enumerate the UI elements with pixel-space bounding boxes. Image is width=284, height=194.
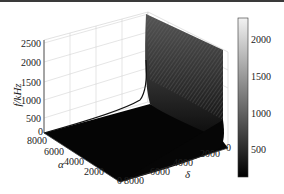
z-axis-ticks: 2500 2000 1500 1000 500 0 — [21, 38, 43, 137]
colorbar-tick: 1500 — [251, 71, 271, 82]
z-tick: 2000 — [21, 57, 41, 68]
z-tick: 2500 — [21, 38, 41, 49]
delta-tick: 8000 — [124, 175, 144, 186]
colorbar: 2000 1500 1000 500 — [238, 18, 271, 177]
alpha-tick: 0 — [117, 175, 122, 186]
z-axis-label: f/kHz — [11, 83, 23, 107]
alpha-tick: 6000 — [44, 146, 64, 157]
delta-tick: 0 — [226, 142, 231, 153]
delta-axis-label: δ — [185, 168, 191, 180]
alpha-tick: 8000 — [27, 135, 47, 146]
delta-tick: 2000 — [200, 148, 220, 159]
z-tick: 500 — [26, 113, 41, 124]
colorbar-tick: 500 — [251, 144, 266, 155]
surface-plot: 2500 2000 1500 1000 500 0 f/kHz 8000 600… — [0, 0, 284, 194]
colorbar-tick: 1000 — [251, 108, 271, 119]
delta-tick: 4000 — [173, 157, 193, 168]
colorbar-tick: 2000 — [251, 34, 271, 45]
alpha-axis-label: α — [58, 158, 64, 170]
delta-tick: 6000 — [150, 166, 170, 177]
z-tick: 1000 — [21, 95, 41, 106]
z-tick: 1500 — [21, 77, 41, 88]
alpha-tick: 4000 — [64, 156, 84, 167]
alpha-tick: 2000 — [84, 166, 104, 177]
